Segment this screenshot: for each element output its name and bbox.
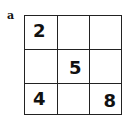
grid-cell-r3c1: 4: [25, 84, 58, 114]
cell-number: 4: [33, 90, 46, 108]
number-grid: 2 5 4 8: [24, 15, 122, 115]
cell-number: 2: [33, 22, 46, 40]
grid-cell-r1c2: [58, 16, 90, 50]
grid-cell-r3c2: [58, 84, 90, 114]
grid-cell-r1c1: 2: [25, 16, 58, 50]
cell-number: 8: [103, 92, 116, 110]
grid-cell-r1c3: [90, 16, 121, 50]
grid-cell-r2c2: 5: [58, 50, 90, 84]
cell-number: 5: [69, 59, 82, 77]
grid-cell-r2c1: [25, 50, 58, 84]
grid-cell-r2c3: [90, 50, 121, 84]
figure-label: a: [7, 9, 14, 22]
grid-cell-r3c3: 8: [90, 84, 121, 114]
